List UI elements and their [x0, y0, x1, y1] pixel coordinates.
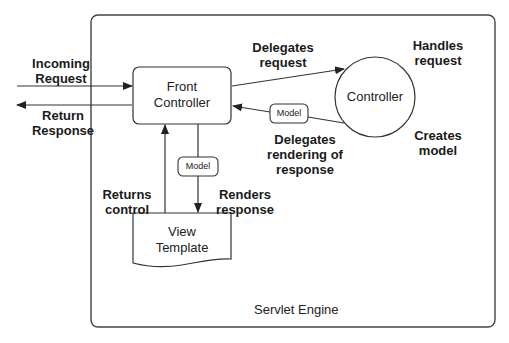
renders-response-line2: response: [214, 202, 276, 217]
return-response-label: Return Response: [30, 108, 96, 138]
creates-model-line1: Creates: [410, 128, 466, 143]
handles-request-line1: Handles: [410, 38, 466, 53]
returns-control-line2: control: [99, 202, 155, 217]
returns-control-line1: Returns: [99, 187, 155, 202]
incoming-request-line1: Incoming: [28, 56, 94, 71]
incoming-request-label: Incoming Request: [28, 56, 94, 86]
model-lower-label: Model: [178, 161, 218, 171]
front-controller-line2: Controller: [133, 95, 231, 111]
delegates-rendering-line1: Delegates: [262, 132, 348, 147]
incoming-request-line2: Request: [28, 71, 94, 86]
delegates-rendering-arrow: [233, 106, 270, 112]
delegates-rendering-line3: response: [262, 162, 348, 177]
delegates-request-line2: request: [248, 55, 318, 70]
controller-label-text: Controller: [335, 89, 415, 105]
delegates-request-label: Delegates request: [248, 40, 318, 70]
delegates-rendering-label: Delegates rendering of response: [262, 132, 348, 177]
model-upper-label: Model: [270, 108, 308, 118]
front-controller-label: Front Controller: [133, 79, 231, 111]
servlet-engine-label: Servlet Engine: [254, 302, 339, 317]
return-response-line1: Return: [30, 108, 96, 123]
delegates-rendering-arrow-segment: [308, 117, 344, 123]
creates-model-line2: model: [410, 143, 466, 158]
renders-response-line1: Renders: [214, 187, 276, 202]
renders-response-label: Renders response: [214, 187, 276, 217]
view-template-label: View Template: [133, 224, 231, 256]
delegates-request-arrow: [232, 69, 344, 86]
returns-control-label: Returns control: [99, 187, 155, 217]
front-controller-line1: Front: [133, 79, 231, 95]
view-template-line2: Template: [133, 240, 231, 256]
view-template-line1: View: [133, 224, 231, 240]
return-response-line2: Response: [30, 123, 96, 138]
delegates-request-line1: Delegates: [248, 40, 318, 55]
handles-request-annotation: Handles request: [410, 38, 466, 68]
delegates-rendering-line2: rendering of: [262, 147, 348, 162]
handles-request-line2: request: [410, 53, 466, 68]
controller-label: Controller: [335, 89, 415, 105]
creates-model-annotation: Creates model: [410, 128, 466, 158]
